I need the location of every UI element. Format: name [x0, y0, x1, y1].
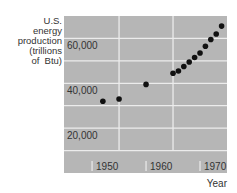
data-point [219, 23, 225, 29]
data-point [213, 31, 219, 37]
data-point [143, 82, 149, 88]
y-axis-label-line: of Btu) [31, 55, 62, 66]
x-axis-label: Year [207, 178, 228, 189]
y-tick-label: 60,000 [67, 40, 98, 51]
data-point [170, 70, 176, 76]
data-point [116, 96, 122, 102]
x-tick-label: 1950 [96, 161, 119, 172]
data-point [203, 43, 209, 49]
y-tick-label: 20,000 [67, 130, 98, 141]
y-tick-label: 40,000 [67, 85, 98, 96]
y-axis-label: U.S.energyproduction(trillionsof Btu) [18, 15, 63, 66]
x-tick-label: 1960 [150, 161, 173, 172]
x-axis-tick-labels: 195019601970 [96, 161, 227, 172]
data-point [176, 68, 182, 74]
data-point [208, 37, 214, 43]
data-point [197, 50, 203, 56]
data-point [186, 59, 192, 65]
data-point [100, 98, 106, 104]
x-tick-label: 1970 [204, 161, 227, 172]
chart: 60,00040,00020,000 195019601970 U.S.ener… [0, 0, 237, 193]
data-point [192, 55, 198, 61]
data-point [181, 64, 187, 70]
